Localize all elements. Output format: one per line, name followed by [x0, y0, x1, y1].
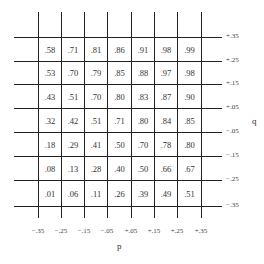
grid-hline — [14, 206, 222, 207]
grid-cell: .83 — [132, 86, 154, 108]
grid-cell: .80 — [108, 86, 131, 108]
grid-cell: .97 — [155, 63, 177, 84]
grid-cell: .67 — [178, 158, 201, 180]
x-tick-label: −.05 — [95, 227, 119, 235]
grid-cell: .86 — [108, 39, 131, 61]
grid-cell: .29 — [62, 134, 84, 156]
grid-hline — [14, 156, 222, 157]
grid-cell: .51 — [62, 86, 84, 108]
x-tick-label: −.35 — [26, 227, 50, 235]
grid-hline — [14, 37, 222, 38]
grid-cell: .87 — [155, 86, 177, 108]
grid-cell: .01 — [39, 182, 61, 206]
y-tick-label: −.15 — [226, 151, 239, 159]
grid-cell: .85 — [178, 110, 201, 132]
grid-cell: .11 — [85, 182, 107, 206]
grid-cell: .39 — [132, 182, 154, 206]
x-tick-label: +.35 — [189, 227, 213, 235]
grid-hline — [14, 61, 222, 62]
grid-cell: .18 — [39, 134, 61, 156]
grid-cell: .70 — [62, 63, 84, 84]
grid-hline — [14, 84, 222, 85]
grid-cell: .53 — [39, 63, 61, 84]
grid-cell: .40 — [108, 158, 131, 180]
grid-cell: .26 — [108, 182, 131, 206]
grid-cell: .85 — [108, 63, 131, 84]
x-tick-label: +.05 — [119, 227, 143, 235]
grid-cell: .90 — [178, 86, 201, 108]
grid-cell: .98 — [155, 39, 177, 61]
x-axis-label: p — [117, 241, 122, 251]
grid-cell: .81 — [85, 39, 107, 61]
grid-cell: .28 — [85, 158, 107, 180]
grid-cell: .66 — [155, 158, 177, 180]
grid-cell: .91 — [132, 39, 154, 61]
grid-cell: .80 — [132, 110, 154, 132]
grid-cell: .98 — [178, 63, 201, 84]
grid-cell: .06 — [62, 182, 84, 206]
grid-cell: .49 — [155, 182, 177, 206]
y-axis-label: q — [252, 116, 257, 126]
y-tick-label: −.05 — [226, 127, 239, 135]
x-tick-label: +.15 — [142, 227, 166, 235]
grid-cell: .70 — [132, 134, 154, 156]
y-tick-label: −.25 — [226, 175, 239, 183]
grid-cell: .58 — [39, 39, 61, 61]
y-tick-label: +.15 — [226, 79, 239, 87]
grid-cell: .80 — [178, 134, 201, 156]
grid-cell: .50 — [132, 158, 154, 180]
y-tick-label: +.25 — [226, 56, 239, 64]
grid-cell: .99 — [178, 39, 201, 61]
grid-cell: .43 — [39, 86, 61, 108]
x-tick-label: +.25 — [165, 227, 189, 235]
grid-cell: .13 — [62, 158, 84, 180]
grid-cell: .51 — [178, 182, 201, 206]
y-tick-label: +.05 — [226, 103, 239, 111]
grid-hline — [14, 132, 222, 133]
grid-cell: .41 — [85, 134, 107, 156]
grid-cell: .71 — [62, 39, 84, 61]
grid-cell: .79 — [85, 63, 107, 84]
grid-cell: .08 — [39, 158, 61, 180]
grid-cell: .50 — [108, 134, 131, 156]
grid-cell: .42 — [62, 110, 84, 132]
grid-cell: .78 — [155, 134, 177, 156]
grid-cell: .51 — [85, 110, 107, 132]
grid-cell: .84 — [155, 110, 177, 132]
y-tick-label: −.35 — [226, 201, 239, 209]
probability-grid-chart: .58.71.81.86.91.98.99.53.70.79.85.88.97.… — [0, 0, 264, 264]
grid-vline — [201, 12, 202, 218]
grid-cell: .71 — [108, 110, 131, 132]
x-tick-label: −.15 — [72, 227, 96, 235]
x-tick-label: −.25 — [49, 227, 73, 235]
y-tick-label: +.35 — [226, 32, 239, 40]
grid-cell: .88 — [132, 63, 154, 84]
grid-cell: .32 — [39, 110, 61, 132]
grid-hline — [14, 180, 222, 181]
grid-cell: .70 — [85, 86, 107, 108]
grid-hline — [14, 108, 222, 109]
